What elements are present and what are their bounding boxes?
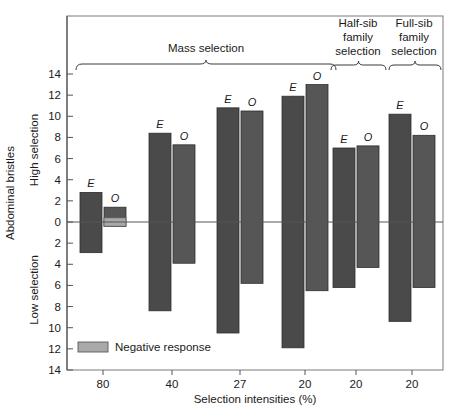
bar-chart-svg: 141210864202468101214 EOEOEOEOEOEO 80402… [0, 0, 465, 411]
y-tick-label: 4 [55, 174, 62, 186]
bracket-label-half-sib-line-2: family [343, 31, 373, 43]
y-tick-label: 6 [55, 153, 61, 165]
bracket-label-full-sib-line-3: selection [391, 45, 436, 57]
y-tick-label: 14 [48, 364, 61, 376]
y-tick-label: 0 [55, 216, 61, 228]
x-tick-label: 20 [350, 378, 363, 390]
bracket-label-full-sib-line-1: Full-sib [395, 17, 432, 29]
y-tick-label: 8 [55, 131, 61, 143]
legend-swatch-negative-response [78, 342, 108, 352]
bar-series-label-o: O [180, 130, 189, 142]
bar-series-label-e: E [396, 99, 404, 111]
y-axis-upper-title: High selection [28, 114, 40, 186]
bar-o [241, 111, 263, 283]
bar-series-label-e: E [340, 133, 348, 145]
bar-series-label-o: O [313, 70, 322, 82]
bar-series-label-o: O [111, 192, 120, 204]
chart-figure: 141210864202468101214 EOEOEOEOEOEO 80402… [0, 0, 465, 411]
bracket-label-mass-selection: Mass selection [168, 42, 244, 54]
y-axis-lower-title: Low selection [28, 255, 40, 325]
y-tick-label: 2 [55, 195, 61, 207]
y-tick-label: 6 [55, 279, 61, 291]
y-tick-label: 10 [48, 110, 61, 122]
x-tick-label: 20 [406, 378, 419, 390]
y-tick-label: 12 [48, 89, 61, 101]
bar-e [217, 108, 239, 333]
y-tick-label: 10 [48, 322, 61, 334]
bar-series-label-e: E [224, 93, 232, 105]
y-tick-label: 12 [48, 343, 61, 355]
x-tick-label: 20 [299, 378, 312, 390]
bar-series-label-o: O [420, 120, 429, 132]
y-tick-label: 2 [55, 237, 61, 249]
legend-label-negative-response: Negative response [115, 341, 211, 353]
legend: Negative response [78, 341, 211, 353]
y-tick-label: 4 [55, 258, 62, 270]
x-axis-title: Selection intensities (%) [194, 393, 317, 405]
bar-o [413, 135, 435, 287]
bar-o [357, 146, 379, 268]
y-tick-label: 14 [48, 68, 61, 80]
bar-series-label-e: E [289, 81, 297, 93]
x-tick-label: 27 [234, 378, 247, 390]
bar-series-label-e: E [156, 118, 164, 130]
bracket-label-half-sib-line-1: Half-sib [339, 17, 378, 29]
x-tick-label: 80 [97, 378, 110, 390]
bracket-label-half-sib-line-3: selection [335, 45, 380, 57]
bar-series-label-o: O [248, 96, 257, 108]
y-tick-label: 8 [55, 301, 61, 313]
bar-series-label-e: E [87, 177, 95, 189]
bar-e [333, 148, 355, 288]
bar-o [306, 85, 328, 291]
bar-series-label-o: O [364, 131, 373, 143]
bar-e [389, 114, 411, 321]
bar-o [173, 145, 195, 263]
y-axis-title: Abdominal bristles [4, 146, 16, 240]
x-tick-label: 40 [166, 378, 179, 390]
bracket-label-full-sib-line-2: family [399, 31, 429, 43]
